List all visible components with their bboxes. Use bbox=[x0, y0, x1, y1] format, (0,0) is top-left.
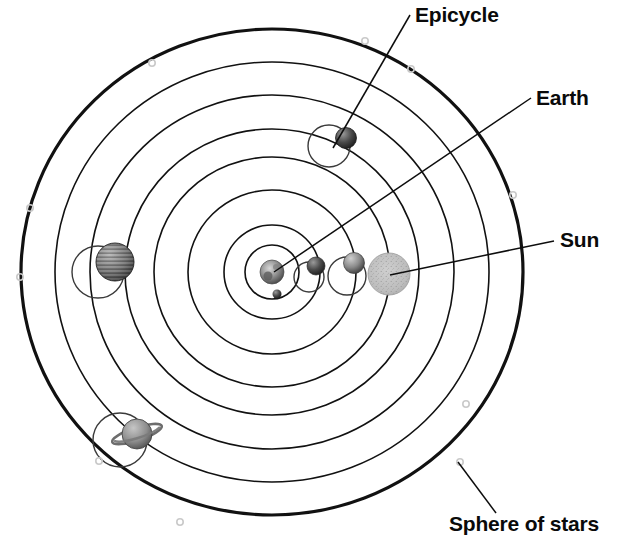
star-icon bbox=[362, 38, 368, 44]
sun-body bbox=[368, 253, 410, 295]
earth-leader-line bbox=[274, 98, 531, 272]
earth-body bbox=[260, 260, 284, 284]
venus-body bbox=[344, 253, 365, 274]
label-sphere-of-stars: Sphere of stars bbox=[449, 512, 599, 535]
diagram-labels: Epicycle Earth Sun Sphere of stars bbox=[415, 3, 599, 535]
star-icon bbox=[177, 519, 183, 525]
epicycle-leader-line bbox=[333, 15, 410, 148]
star-icon bbox=[96, 458, 102, 464]
saturn-body bbox=[110, 419, 163, 449]
star-icon bbox=[463, 401, 469, 407]
sphere-of-stars-leader-line bbox=[458, 462, 496, 513]
label-earth: Earth bbox=[536, 86, 589, 109]
sun-leader-line bbox=[390, 241, 554, 275]
star-icon bbox=[149, 60, 155, 66]
moon-body bbox=[273, 290, 282, 299]
mercury-body bbox=[307, 257, 325, 275]
celestial-bodies bbox=[96, 128, 410, 450]
label-epicycle: Epicycle bbox=[415, 3, 499, 26]
epicycle-circles bbox=[72, 125, 366, 467]
jupiter-body bbox=[96, 243, 134, 281]
geocentric-model-diagram: Epicycle Earth Sun Sphere of stars bbox=[0, 0, 625, 544]
label-sun: Sun bbox=[560, 228, 599, 251]
diagram-canvas: Epicycle Earth Sun Sphere of stars bbox=[0, 0, 625, 544]
